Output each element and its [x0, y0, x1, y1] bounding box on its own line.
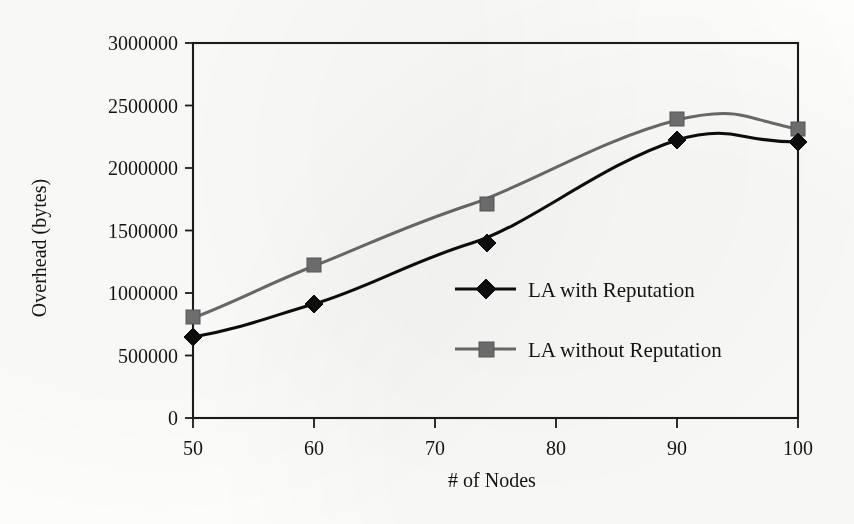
legend-item-la-with-reputation[interactable]: LA with Reputation [455, 278, 695, 302]
x-tick-label: 60 [304, 437, 324, 459]
y-tick-label: 1000000 [108, 282, 178, 304]
y-axis-tick-labels: 3000000 2500000 2000000 1500000 1000000 … [108, 32, 178, 429]
x-tick-label: 50 [183, 437, 203, 459]
x-axis-tick-labels: 50 60 70 80 90 100 [183, 437, 813, 459]
y-tick-label: 500000 [118, 345, 178, 367]
diamond-marker-icon [184, 328, 202, 346]
square-marker-icon [479, 342, 494, 357]
overhead-vs-nodes-line-chart: 3000000 2500000 2000000 1500000 1000000 … [0, 0, 854, 524]
legend-label: LA without Reputation [528, 338, 722, 362]
diamond-marker-icon [478, 234, 496, 252]
y-tick-label: 2500000 [108, 95, 178, 117]
x-tick-label: 100 [783, 437, 813, 459]
chart-legend: LA with Reputation LA without Reputation [455, 278, 722, 362]
square-marker-icon [186, 310, 200, 324]
legend-item-la-without-reputation[interactable]: LA without Reputation [455, 338, 722, 362]
y-tick-label: 3000000 [108, 32, 178, 54]
diamond-marker-icon [476, 279, 496, 299]
diamond-marker-icon [668, 131, 686, 149]
y-axis-ticks [185, 43, 193, 418]
x-axis-title: # of Nodes [448, 469, 536, 491]
chart-figure: 3000000 2500000 2000000 1500000 1000000 … [0, 0, 854, 524]
y-tick-label: 0 [168, 407, 178, 429]
square-marker-icon [670, 112, 684, 126]
y-tick-label: 1500000 [108, 220, 178, 242]
diamond-marker-icon [305, 295, 323, 313]
x-tick-label: 90 [667, 437, 687, 459]
series-line-la-without-reputation [193, 113, 798, 318]
x-axis-ticks [193, 418, 798, 428]
series-line-la-with-reputation [193, 133, 798, 337]
y-axis-title: Overhead (bytes) [28, 179, 51, 317]
square-marker-icon [307, 258, 321, 272]
x-tick-label: 80 [546, 437, 566, 459]
x-tick-label: 70 [425, 437, 445, 459]
y-tick-label: 2000000 [108, 157, 178, 179]
square-marker-icon [480, 197, 494, 211]
legend-label: LA with Reputation [528, 278, 695, 302]
series-markers-la-without-reputation [186, 112, 805, 324]
